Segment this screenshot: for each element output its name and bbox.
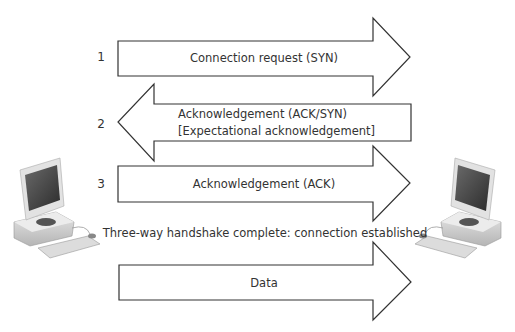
data-label: Data bbox=[250, 276, 277, 290]
step-number-3: 3 bbox=[97, 177, 105, 191]
step-number-1: 1 bbox=[97, 50, 105, 64]
expectational-ack-label: [Expectational acknowledgement] bbox=[178, 124, 375, 138]
ack-syn-label: Acknowledgement (ACK/SYN) bbox=[178, 107, 347, 121]
tcp-three-way-handshake-diagram: 1 2 3 Connection request (SYN) Acknowled… bbox=[0, 0, 515, 332]
ack-syn-arrow bbox=[118, 84, 411, 161]
left-computer-icon bbox=[14, 158, 100, 258]
syn-label: Connection request (SYN) bbox=[190, 51, 338, 65]
step-number-2: 2 bbox=[97, 117, 105, 131]
right-computer-icon bbox=[415, 158, 501, 258]
handshake-complete-text: Three-way handshake complete: connection… bbox=[103, 226, 427, 240]
ack-label: Acknowledgement (ACK) bbox=[193, 177, 335, 191]
